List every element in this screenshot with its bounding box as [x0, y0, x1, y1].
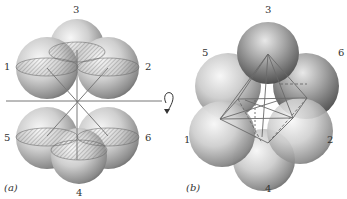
label-b6: 6	[338, 47, 344, 58]
label-a2: 2	[145, 61, 151, 72]
equator-a1	[16, 58, 78, 76]
label-b3: 3	[265, 4, 271, 15]
sphere-b3	[237, 22, 299, 84]
label-b5: 5	[202, 47, 208, 58]
panel-a: 3 1 2 5 6 4 (a)	[4, 4, 173, 198]
panel-b: 3 5 6 1 2 4 (b)	[184, 4, 344, 194]
caption-a: (a)	[4, 182, 18, 193]
rotation-arrow-icon	[164, 93, 173, 114]
caption-b: (b)	[186, 182, 200, 193]
label-b1: 1	[184, 134, 190, 145]
label-b4: 4	[265, 183, 271, 194]
label-a5: 5	[4, 132, 10, 143]
equator-a4	[51, 140, 107, 160]
octahedral-sphere-figure: 3 1 2 5 6 4 (a)	[0, 0, 347, 199]
label-a6: 6	[145, 132, 151, 143]
label-b2: 2	[327, 134, 333, 145]
label-a4: 4	[76, 187, 82, 198]
label-a1: 1	[4, 61, 10, 72]
label-a3: 3	[73, 4, 79, 15]
equator-a2	[77, 58, 139, 76]
